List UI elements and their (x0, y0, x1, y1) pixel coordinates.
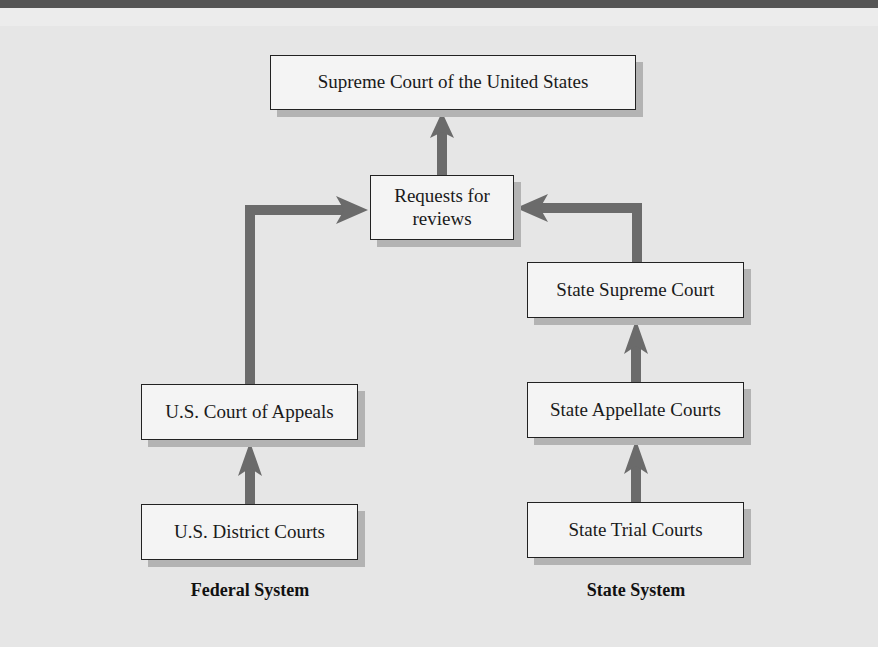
arrow-appeals-to-requests (245, 196, 368, 385)
box-label: Requests for reviews (381, 185, 503, 231)
arrow-statesupreme-to-requests (516, 194, 642, 263)
box-label: Supreme Court of the United States (318, 71, 589, 94)
label-federal-system: Federal System (140, 580, 360, 601)
box-state-supreme-court: State Supreme Court (527, 262, 744, 318)
box-label: U.S. District Courts (174, 521, 325, 544)
box-requests-for-reviews: Requests for reviews (370, 175, 514, 240)
box-us-court-of-appeals: U.S. Court of Appeals (141, 384, 358, 440)
box-us-district-courts: U.S. District Courts (141, 504, 358, 560)
box-label: State Supreme Court (556, 279, 714, 302)
arrow-trial-to-appellate (624, 440, 648, 503)
label-state-system: State System (526, 580, 746, 601)
arrow-requests-to-supreme (430, 112, 454, 176)
box-label: State Appellate Courts (550, 399, 721, 422)
box-state-appellate-courts: State Appellate Courts (527, 382, 744, 438)
box-supreme-court-us: Supreme Court of the United States (270, 55, 636, 110)
arrow-appellate-to-statesupreme (624, 320, 648, 383)
box-state-trial-courts: State Trial Courts (527, 502, 744, 558)
box-label: State Trial Courts (568, 519, 702, 542)
box-label: U.S. Court of Appeals (165, 401, 333, 424)
arrow-district-to-appeals (238, 442, 262, 505)
